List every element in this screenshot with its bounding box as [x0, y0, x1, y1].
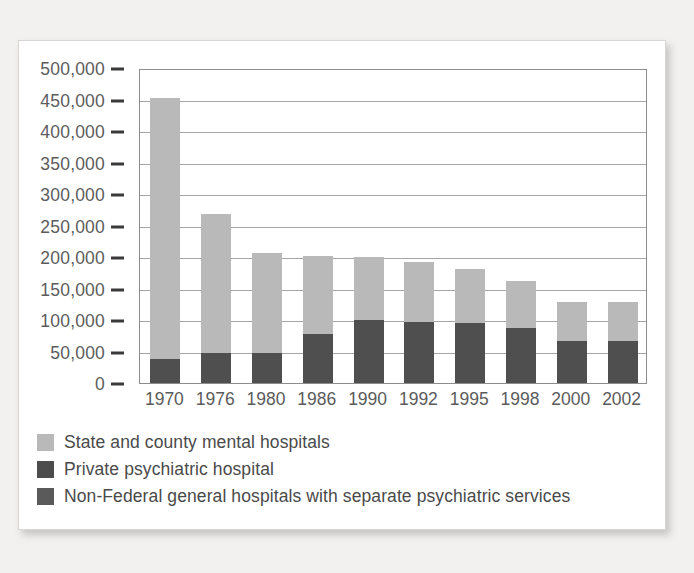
bar-segment-state-county[interactable]	[354, 257, 384, 320]
y-axis-tick-label: 300,000	[40, 185, 105, 206]
y-axis-tick-mark	[111, 68, 124, 71]
bar-segment-nonfederal[interactable]	[252, 353, 282, 383]
y-axis-tick-label: 250,000	[40, 216, 105, 237]
y-axis-tick-label: 350,000	[40, 153, 105, 174]
x-axis-tick-label: 2000	[551, 389, 590, 410]
y-axis-tick-label: 0	[95, 374, 105, 395]
y-axis-tick-mark	[111, 351, 124, 354]
bar-group[interactable]	[557, 302, 587, 383]
y-axis-tick-label: 50,000	[50, 342, 105, 363]
bar-group[interactable]	[201, 214, 231, 383]
bar-segment-nonfederal[interactable]	[303, 334, 333, 383]
y-axis-tick-label: 400,000	[40, 122, 105, 143]
page-root: 050,000100,000150,000200,000250,000300,0…	[0, 0, 694, 573]
legend-item[interactable]: State and county mental hospitals	[37, 429, 647, 456]
bar-group[interactable]	[252, 253, 282, 383]
y-axis-tick-mark	[111, 162, 124, 165]
y-axis-tick-mark	[111, 99, 124, 102]
y-axis-tick-label: 450,000	[40, 90, 105, 111]
y-axis-tick-label: 500,000	[40, 59, 105, 80]
bar-segment-state-county[interactable]	[608, 302, 638, 342]
x-axis-tick-label: 1976	[196, 389, 235, 410]
bar-group[interactable]	[455, 269, 485, 383]
x-axis-tick-label: 1970	[145, 389, 184, 410]
y-axis-tick-label: 100,000	[40, 311, 105, 332]
y-axis-tick-mark	[111, 320, 124, 323]
y-axis-tick-mark	[111, 288, 124, 291]
x-axis-tick-label: 1980	[247, 389, 286, 410]
legend-item[interactable]: Private psychiatric hospital	[37, 456, 647, 483]
y-axis-tick-mark	[111, 131, 124, 134]
x-axis-tick-label: 1998	[501, 389, 540, 410]
bar-segment-state-county[interactable]	[150, 98, 180, 359]
bar-segment-nonfederal[interactable]	[455, 323, 485, 383]
bar-segment-nonfederal[interactable]	[608, 341, 638, 383]
bar-group[interactable]	[303, 256, 333, 383]
bar-segment-state-county[interactable]	[201, 214, 231, 353]
bar-segment-state-county[interactable]	[252, 253, 282, 353]
gridline	[140, 101, 646, 102]
bar-segment-nonfederal[interactable]	[354, 320, 384, 383]
y-axis-tick-label: 150,000	[40, 279, 105, 300]
plot-area	[139, 69, 647, 384]
y-axis-tick-label: 200,000	[40, 248, 105, 269]
legend-item[interactable]: Non-Federal general hospitals with separ…	[37, 483, 647, 510]
bar-group[interactable]	[608, 302, 638, 383]
legend-swatch-icon	[37, 434, 54, 451]
x-axis-labels: 1970197619801986199019921995199820002002	[139, 389, 647, 417]
x-axis-tick-label: 2002	[602, 389, 641, 410]
legend-label: State and county mental hospitals	[64, 432, 330, 453]
gridline	[140, 195, 646, 196]
y-axis-tick-mark	[111, 225, 124, 228]
gridline	[140, 132, 646, 133]
bar-group[interactable]	[506, 281, 536, 383]
legend-label: Non-Federal general hospitals with separ…	[64, 486, 570, 507]
legend-swatch-icon	[37, 461, 54, 478]
chart-card: 050,000100,000150,000200,000250,000300,0…	[18, 40, 666, 530]
bar-segment-nonfederal[interactable]	[150, 359, 180, 383]
bar-segment-state-county[interactable]	[404, 262, 434, 322]
bar-group[interactable]	[404, 262, 434, 383]
bar-segment-nonfederal[interactable]	[557, 341, 587, 383]
bar-segment-state-county[interactable]	[303, 256, 333, 333]
bar-group[interactable]	[354, 257, 384, 383]
y-axis-tick-mark	[111, 257, 124, 260]
x-axis-tick-label: 1990	[348, 389, 387, 410]
gridline	[140, 69, 646, 70]
x-axis-tick-label: 1992	[399, 389, 438, 410]
bar-group[interactable]	[150, 98, 180, 383]
legend-label: Private psychiatric hospital	[64, 459, 274, 480]
bar-segment-state-county[interactable]	[506, 281, 536, 328]
bar-segment-nonfederal[interactable]	[201, 353, 231, 383]
gridline	[140, 164, 646, 165]
y-axis-tick-mark	[111, 383, 124, 386]
y-axis-tick-mark	[111, 194, 124, 197]
bar-segment-state-county[interactable]	[455, 269, 485, 323]
y-axis-ticks	[111, 69, 137, 384]
legend-swatch-icon	[37, 488, 54, 505]
bar-segment-state-county[interactable]	[557, 302, 587, 342]
bar-segment-nonfederal[interactable]	[404, 322, 434, 383]
x-axis-tick-label: 1986	[297, 389, 336, 410]
y-axis-labels: 050,000100,000150,000200,000250,000300,0…	[19, 69, 105, 384]
chart-legend: State and county mental hospitalsPrivate…	[37, 429, 647, 510]
x-axis-tick-label: 1995	[450, 389, 489, 410]
bar-segment-nonfederal[interactable]	[506, 328, 536, 383]
